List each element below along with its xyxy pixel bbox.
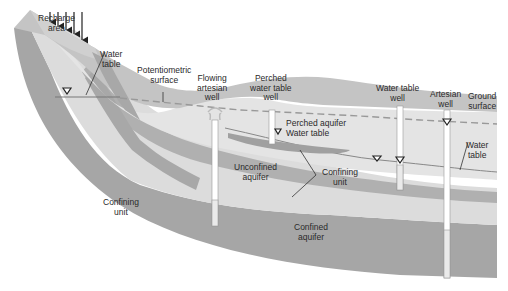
label-flowing-artesian-well: Flowing artesian well [197,74,227,103]
water-table-well [397,106,403,190]
artesian-well [444,110,450,278]
perched-water-table-well [269,110,275,144]
cross-section-graphic [0,0,508,291]
label-confining-unit-middle: Confining unit [322,168,358,187]
label-perched-water-table: Water table [286,129,329,139]
label-recharge-area: Recharge area [38,14,75,33]
label-water-table-left: Water table [100,50,122,69]
label-potentiometric-surface: Potentiometric surface [137,66,191,85]
label-artesian-well: Artesian well [430,90,461,109]
label-confined-aquifer: Confined aquifer [294,223,328,242]
label-unconfined-aquifer: Unconfined aquifer [234,163,277,182]
aquifer-cross-section-diagram: Recharge area Water table Potentiometric… [0,0,508,291]
label-water-table-right: Water table [466,141,488,160]
label-water-table-well: Water table well [376,84,419,103]
label-confining-unit-left: Confining unit [103,198,139,217]
label-perched-water-table-well: Perched water table well [250,74,292,103]
label-ground-surface: Ground surface [468,92,496,111]
